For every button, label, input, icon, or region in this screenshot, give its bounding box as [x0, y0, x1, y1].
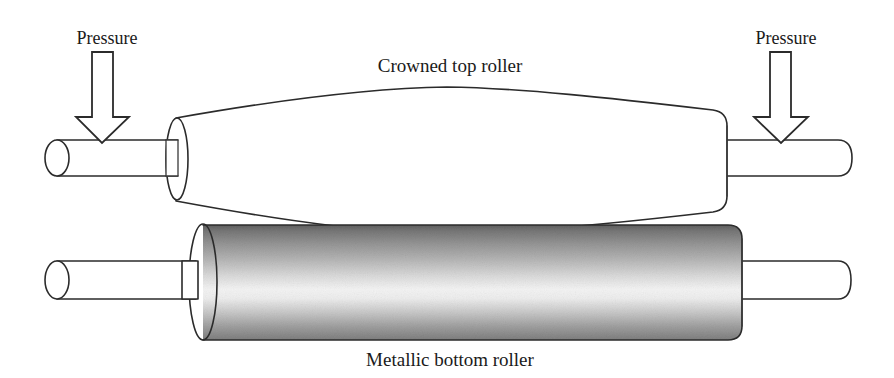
top-roller-right-shaft	[722, 140, 852, 176]
pressure-label-right: Pressure	[756, 28, 817, 48]
crowned-top-roller-body	[166, 87, 727, 234]
pressure-arrow-left-group	[76, 52, 129, 143]
metallic-bottom-roller-label: Metallic bottom roller	[366, 349, 534, 370]
roller-diagram-svg: Crowned top roller Metallic bottom rolle…	[0, 0, 894, 378]
crowned-top-roller-label: Crowned top roller	[378, 55, 523, 76]
pressure-arrow-right-group	[754, 52, 808, 143]
bottom-roller-left-shaft	[45, 261, 196, 299]
top-roller-left-shaft	[45, 140, 178, 176]
roller-nip-diagram: Crowned top roller Metallic bottom rolle…	[0, 0, 894, 378]
metallic-bottom-roller-body	[182, 224, 742, 340]
bottom-roller-right-shaft	[736, 261, 851, 299]
pressure-label-left: Pressure	[77, 28, 138, 48]
down-arrow-icon	[76, 52, 129, 143]
down-arrow-icon	[754, 52, 808, 143]
